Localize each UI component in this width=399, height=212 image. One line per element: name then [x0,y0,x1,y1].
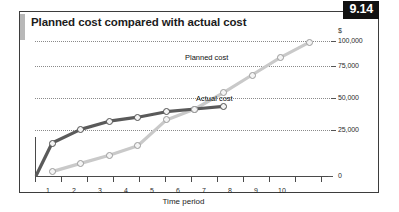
y-tick-label-100000: 100,000 [338,37,363,44]
x-tick [243,177,244,182]
planned-cost-line [52,42,309,171]
x-tick-label-7: 7 [202,187,206,194]
x-tick-label-9: 9 [254,187,258,194]
planned-cost-annotation: Planned cost [185,53,228,62]
data-point-marker [49,140,56,147]
x-tick [61,177,62,182]
x-tick [191,177,192,182]
x-tick-label-10: 10 [278,187,286,194]
x-tick-label-4: 4 [124,187,128,194]
x-tick [35,177,36,182]
data-point-marker [106,152,113,159]
x-tick [295,177,296,182]
x-tick [87,177,88,182]
data-point-marker [106,118,113,125]
actual-cost-annotation: Actual cost [196,94,233,103]
x-axis-title: Time period [163,197,205,206]
actual-cost-line [36,106,223,175]
data-point-marker [220,103,227,110]
figure-number-badge: 9.14 [343,1,379,19]
data-point-marker [277,54,284,61]
title-accent-bar [20,14,25,40]
x-tick-label-2: 2 [72,187,76,194]
x-tick-label-3: 3 [98,187,102,194]
x-tick-label-1: 1 [46,187,50,194]
x-tick-label-6: 6 [176,187,180,194]
data-point-marker [249,72,256,79]
series-lines [35,41,332,177]
x-tick [217,177,218,182]
x-tick [139,177,140,182]
data-point-marker [306,39,313,46]
y-tick-label-50000: 50,000 [338,94,359,101]
x-tick-label-5: 5 [150,187,154,194]
x-tick [165,177,166,182]
x-tick [321,177,322,182]
x-tick-label-8: 8 [228,187,232,194]
figure-container: Planned cost compared with actual cost 9… [19,11,379,193]
y-axis-currency-label: $ [338,27,342,34]
x-tick [113,177,114,182]
y-tick-label-25000: 25,000 [338,126,359,133]
y-tick-label-0: 0 [338,172,342,179]
y-tick-label-75000: 75,000 [338,62,359,69]
page-title: Planned cost compared with actual cost [31,16,246,28]
data-point-marker [191,106,198,113]
data-point-marker [134,114,141,121]
x-tick [269,177,270,182]
chart-plot-area: 1 2 3 4 5 6 7 8 9 10 Time period $ 100,0… [35,41,332,177]
data-point-marker [49,168,56,175]
